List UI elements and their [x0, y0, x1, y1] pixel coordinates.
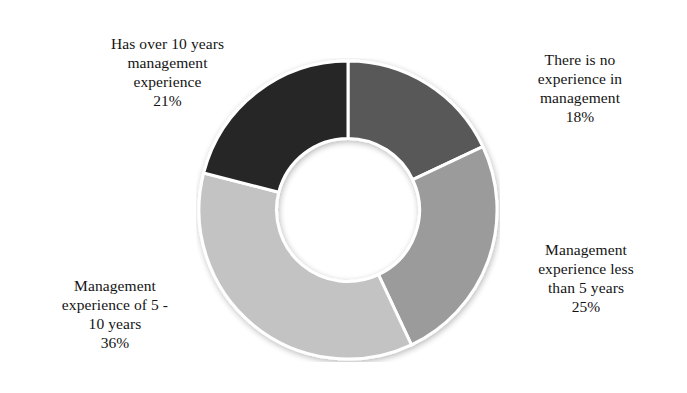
slice-label-no-experience-text: There is no experience in management — [538, 51, 622, 106]
donut-chart-svg: There is no experience in management 18%… — [196, 58, 500, 362]
donut-slice[interactable]: Management experience of 5 - 10 years 36… — [199, 173, 411, 359]
chart-page: Has over 10 years management experience … — [0, 0, 687, 393]
donut-chart: There is no experience in management 18%… — [196, 58, 500, 362]
slice-label-less-than-5-years: Management experience less than 5 years … — [488, 222, 684, 335]
donut-slice[interactable]: Has over 10 years management experience … — [204, 61, 348, 192]
slice-label-less-than-5-years-percent: 25% — [488, 298, 684, 317]
donut-slices: There is no experience in management 18%… — [199, 61, 497, 359]
slice-label-5-to-10-years-text: Management experience of 5 - 10 years — [62, 277, 168, 332]
slice-label-5-to-10-years: Management experience of 5 - 10 years 36… — [10, 258, 220, 371]
slice-label-no-experience: There is no experience in management 18% — [480, 32, 680, 145]
slice-label-5-to-10-years-percent: 36% — [10, 334, 220, 353]
slice-label-less-than-5-years-text: Management experience less than 5 years — [538, 241, 634, 296]
slice-label-no-experience-percent: 18% — [480, 108, 680, 127]
